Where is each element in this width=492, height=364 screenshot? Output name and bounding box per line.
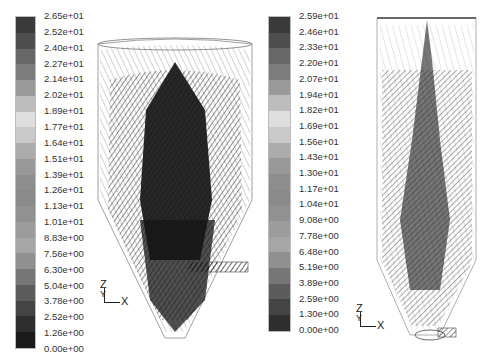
left-panel: 2.65e+012.52e+012.40e+012.27e+012.14e+01… bbox=[0, 0, 260, 364]
right-panel: 2.59e+012.46e+012.33e+012.20e+012.07e+01… bbox=[260, 0, 492, 364]
right-axis-horizontal-line bbox=[360, 326, 376, 327]
left-axis-x-label: X bbox=[121, 295, 128, 307]
right-axis-x-label: X bbox=[377, 319, 384, 331]
right-axis-y-label: Y bbox=[356, 313, 362, 323]
left-axis-vertical-line bbox=[104, 288, 105, 302]
right-axis-vertical-line bbox=[360, 312, 361, 326]
left-axis-triad: Z Y X bbox=[100, 278, 140, 318]
right-axis-triad: Z Y X bbox=[356, 302, 396, 342]
left-axis-horizontal-line bbox=[104, 302, 120, 303]
left-axis-y-label: Y bbox=[100, 289, 106, 299]
